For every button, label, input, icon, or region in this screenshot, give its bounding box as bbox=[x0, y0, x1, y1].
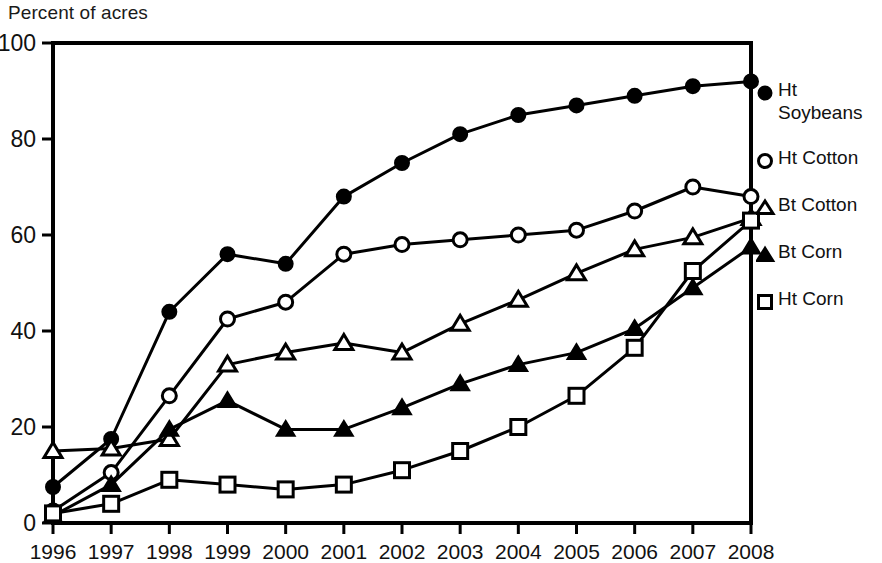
data-point-marker bbox=[511, 108, 525, 122]
data-point-marker bbox=[279, 295, 293, 309]
x-axis-tick-label: 2002 bbox=[379, 540, 426, 563]
data-point-marker bbox=[686, 79, 700, 93]
y-axis-tick-label: 40 bbox=[10, 318, 36, 344]
chart-plot-area: 0204060801001996199719981999200020012002… bbox=[0, 0, 882, 563]
data-point-marker bbox=[221, 312, 235, 326]
data-point-marker bbox=[162, 472, 177, 487]
y-axis-tick-label: 20 bbox=[10, 414, 36, 440]
data-point-marker bbox=[626, 320, 644, 335]
x-axis-tick-label: 2000 bbox=[262, 540, 309, 563]
series-ht-corn bbox=[46, 213, 759, 521]
legend-item[interactable]: Ht Cotton bbox=[756, 146, 882, 171]
data-point-marker bbox=[219, 392, 237, 407]
data-point-marker bbox=[509, 291, 527, 306]
x-axis-tick-label: 2001 bbox=[320, 540, 367, 563]
data-point-marker bbox=[335, 335, 353, 350]
x-axis-tick-label: 2005 bbox=[553, 540, 600, 563]
open-square-icon bbox=[756, 287, 778, 312]
filled-circle-icon bbox=[756, 78, 778, 103]
x-axis-tick-label: 2006 bbox=[611, 540, 658, 563]
open-circle-icon bbox=[756, 146, 778, 171]
legend-item-label: Ht Cotton bbox=[778, 146, 858, 169]
data-point-marker bbox=[337, 247, 351, 261]
legend-item[interactable]: Ht Corn bbox=[756, 287, 882, 312]
legend-item-label: Bt Corn bbox=[778, 240, 842, 263]
legend-item[interactable]: Bt Corn bbox=[756, 240, 882, 265]
data-point-marker bbox=[46, 480, 60, 494]
filled-triangle-icon bbox=[756, 240, 778, 265]
data-point-marker bbox=[511, 420, 526, 435]
x-axis-tick-label: 1998 bbox=[146, 540, 193, 563]
series-bt-corn bbox=[44, 239, 760, 523]
data-point-marker bbox=[336, 477, 351, 492]
legend-item-label: Bt Cotton bbox=[778, 193, 857, 216]
x-axis-tick-label: 1997 bbox=[88, 540, 135, 563]
data-point-marker bbox=[453, 444, 468, 459]
data-point-marker bbox=[46, 506, 61, 521]
y-axis-tick-label: 80 bbox=[10, 126, 36, 152]
plot-frame bbox=[53, 43, 751, 523]
legend-item[interactable]: Ht Soybeans bbox=[756, 78, 882, 124]
x-axis-tick-label: 2003 bbox=[437, 540, 484, 563]
x-axis-tick-label: 2007 bbox=[669, 540, 716, 563]
data-point-marker bbox=[162, 305, 176, 319]
data-point-marker bbox=[511, 228, 525, 242]
y-axis-tick-label: 0 bbox=[23, 510, 36, 536]
x-axis-tick-label: 1999 bbox=[204, 540, 251, 563]
data-point-marker bbox=[220, 477, 235, 492]
data-point-marker bbox=[685, 264, 700, 279]
data-point-marker bbox=[279, 257, 293, 271]
data-point-marker bbox=[278, 482, 293, 497]
data-point-marker bbox=[628, 204, 642, 218]
x-axis-tick-label: 2008 bbox=[728, 540, 775, 563]
chart-container: Percent of acres 02040608010019961997199… bbox=[0, 0, 882, 563]
chart-legend: Ht SoybeansHt CottonBt CottonBt CornHt C… bbox=[756, 78, 882, 334]
data-point-marker bbox=[395, 238, 409, 252]
x-axis-tick-label: 2004 bbox=[495, 540, 542, 563]
series-line bbox=[53, 81, 751, 487]
data-point-marker bbox=[104, 496, 119, 511]
data-point-marker bbox=[686, 180, 700, 194]
data-point-marker bbox=[453, 233, 467, 247]
data-point-marker bbox=[395, 463, 410, 478]
legend-item-label: Ht Soybeans bbox=[778, 78, 863, 124]
y-axis-tick-label: 60 bbox=[10, 222, 36, 248]
x-axis-tick-label: 1996 bbox=[30, 540, 77, 563]
y-axis-title: Percent of acres bbox=[8, 2, 148, 24]
legend-item[interactable]: Bt Cotton bbox=[756, 193, 882, 218]
data-point-marker bbox=[569, 388, 584, 403]
data-point-marker bbox=[162, 389, 176, 403]
legend-item-label: Ht Corn bbox=[778, 287, 843, 310]
data-point-marker bbox=[395, 156, 409, 170]
data-point-marker bbox=[570, 98, 584, 112]
data-point-marker bbox=[628, 89, 642, 103]
y-axis-tick-label: 100 bbox=[0, 30, 36, 56]
data-point-marker bbox=[627, 340, 642, 355]
open-triangle-icon bbox=[756, 193, 778, 218]
data-point-marker bbox=[453, 127, 467, 141]
data-point-marker bbox=[337, 190, 351, 204]
data-point-marker bbox=[160, 421, 178, 436]
data-point-marker bbox=[570, 223, 584, 237]
data-point-marker bbox=[221, 247, 235, 261]
series-ht-soybeans bbox=[46, 74, 758, 494]
